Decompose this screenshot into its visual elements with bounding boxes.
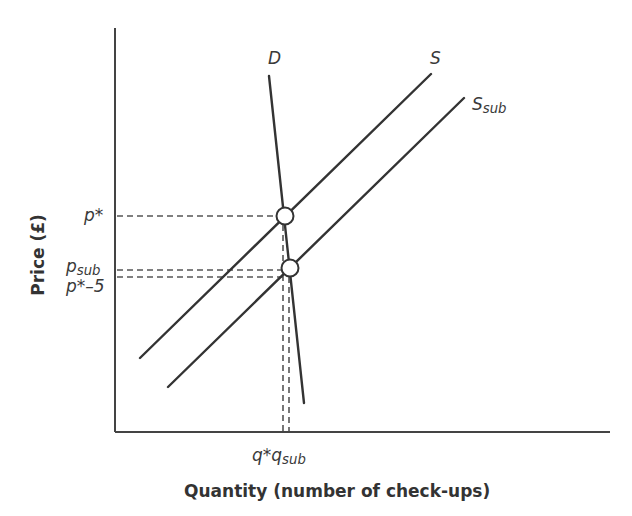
supply-sub-label: Ssub: [472, 96, 507, 116]
supply-label: S: [430, 50, 441, 67]
demand-curve: [269, 76, 304, 403]
supply-sub-curve: [168, 98, 464, 387]
y-axis-title: Price (£): [30, 214, 47, 296]
q-labels: q*qsub: [252, 447, 306, 467]
p-star-label: p*: [84, 207, 103, 224]
q-sub-label: qsub: [271, 445, 306, 465]
equilibrium-original-marker: [277, 208, 294, 225]
demand-label: D: [268, 50, 281, 67]
guide-lines: [117, 216, 289, 431]
p-star-minus-5-label: p*–5: [66, 278, 105, 295]
x-axis-title: Quantity (number of check-ups): [184, 483, 490, 500]
q-star-label: q*: [252, 445, 271, 465]
p-sub-label: psub: [66, 258, 101, 278]
equilibrium-subsidised-marker: [282, 260, 299, 277]
